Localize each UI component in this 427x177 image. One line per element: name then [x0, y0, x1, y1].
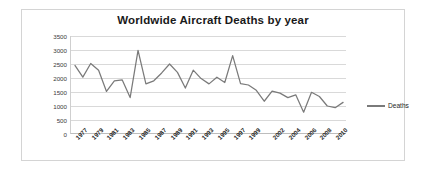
series-polyline-deaths [75, 50, 343, 112]
y-axis-tick-label: 1500 [53, 89, 67, 96]
y-axis-tick-label: 0 [64, 131, 67, 138]
plot-area: 0500100015002000250030003500 19771979198… [70, 36, 346, 134]
y-axis-tick-label: 500 [57, 117, 67, 124]
chart-frame: Worldwide Aircraft Deaths by year 050010… [21, 9, 405, 161]
y-axis-tick-label: 3500 [53, 33, 67, 40]
y-axis-tick-label: 1000 [53, 103, 67, 110]
y-axis-tick-label: 3000 [53, 47, 67, 54]
chart-screenshot: Worldwide Aircraft Deaths by year 050010… [0, 0, 427, 177]
chart-title: Worldwide Aircraft Deaths by year [22, 14, 404, 26]
legend-label-deaths: Deaths [388, 102, 409, 109]
y-axis-tick-label: 2500 [53, 61, 67, 68]
legend-line-swatch [367, 105, 385, 107]
series-line-deaths [71, 36, 347, 134]
chart-legend: Deaths [367, 102, 409, 109]
y-axis-tick-label: 2000 [53, 75, 67, 82]
